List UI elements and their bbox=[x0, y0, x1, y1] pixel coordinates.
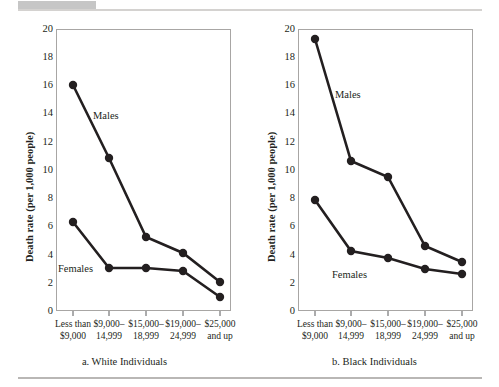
x-axis-ticks bbox=[73, 311, 220, 316]
series-label-males: Males bbox=[335, 89, 361, 100]
x-tick-label: $25,000 and up bbox=[432, 319, 492, 342]
footer-divider-line bbox=[18, 377, 482, 379]
chart-panel-black-individuals: Death rate (per 1,000 people) 0 2 4 6 8 … bbox=[250, 0, 499, 387]
panel-caption: b. Black Individuals bbox=[250, 356, 499, 367]
panel-caption: a. White Individuals bbox=[0, 356, 249, 367]
series-label-females: Females bbox=[58, 263, 93, 274]
series-line-females bbox=[315, 200, 462, 274]
x-axis-ticks bbox=[315, 311, 462, 316]
x-tick-line1: $25,000 bbox=[432, 319, 492, 331]
x-tick-line1: $25,000 bbox=[190, 319, 250, 331]
series-markers-males bbox=[311, 35, 466, 266]
x-tick-line2: and up bbox=[190, 331, 250, 343]
series-label-males: Males bbox=[93, 110, 119, 121]
chart-panel-white-individuals: Death rate (per 1,000 people) 0 2 4 6 8 … bbox=[0, 0, 249, 387]
series-markers-females bbox=[69, 218, 224, 301]
series-markers-females bbox=[311, 196, 466, 278]
x-tick-label: $25,000 and up bbox=[190, 319, 250, 342]
series-line-males bbox=[315, 39, 462, 262]
x-tick-line2: and up bbox=[432, 331, 492, 343]
series-label-females: Females bbox=[332, 269, 367, 280]
